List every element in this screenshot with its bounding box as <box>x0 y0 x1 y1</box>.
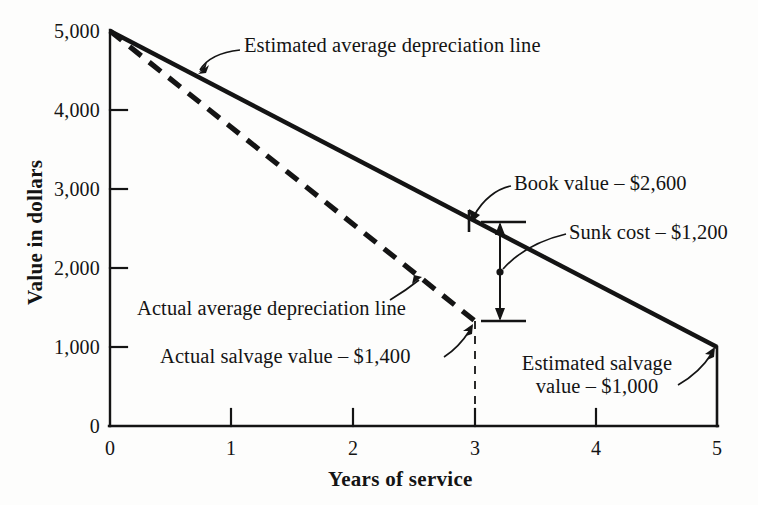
x-tick-label-0: 0 <box>95 437 125 459</box>
leader-sunk-cost <box>496 234 566 276</box>
x-tick-label-5: 5 <box>702 437 732 459</box>
y-axis-ticks <box>110 110 127 347</box>
leader-estimated-line <box>198 50 240 74</box>
x-tick-label-3: 3 <box>460 437 490 459</box>
y-tick-label-4000: 4,000 <box>22 99 100 121</box>
annotation-estimated-depreciation-line: Estimated average depreciation line <box>244 34 541 57</box>
chart-figure: 5,000 4,000 3,000 2,000 1,000 0 0 1 2 3 … <box>0 0 758 505</box>
annotation-sunk-cost: Sunk cost – $1,200 <box>569 221 728 244</box>
annotation-book-value: Book value – $2,600 <box>514 172 687 195</box>
annotation-actual-salvage-value: Actual salvage value – $1,400 <box>160 345 411 368</box>
y-tick-label-5000: 5,000 <box>22 20 100 42</box>
x-tick-label-4: 4 <box>581 437 611 459</box>
sunk-cost-arrowhead-down <box>495 308 505 321</box>
x-axis-title: Years of service <box>328 468 473 492</box>
leader-actual-salvage <box>444 324 473 357</box>
leader-estimated-salvage <box>678 347 715 385</box>
x-tick-label-1: 1 <box>216 437 246 459</box>
y-tick-label-1000: 1,000 <box>22 336 100 358</box>
y-tick-label-0: 0 <box>22 415 100 437</box>
leader-book-value <box>469 186 511 222</box>
x-axis-ticks <box>231 409 596 426</box>
annotation-estimated-salvage-value-line2: value – $1,000 <box>521 375 673 398</box>
sunk-cost-arrowhead-up <box>495 222 505 235</box>
y-axis-title: Value in dollars <box>24 160 48 305</box>
chart-canvas <box>0 0 758 505</box>
annotation-estimated-salvage-value-line1: Estimated salvage <box>521 352 673 375</box>
x-tick-label-2: 2 <box>338 437 368 459</box>
annotation-actual-depreciation-line: Actual average depreciation line <box>137 297 406 320</box>
